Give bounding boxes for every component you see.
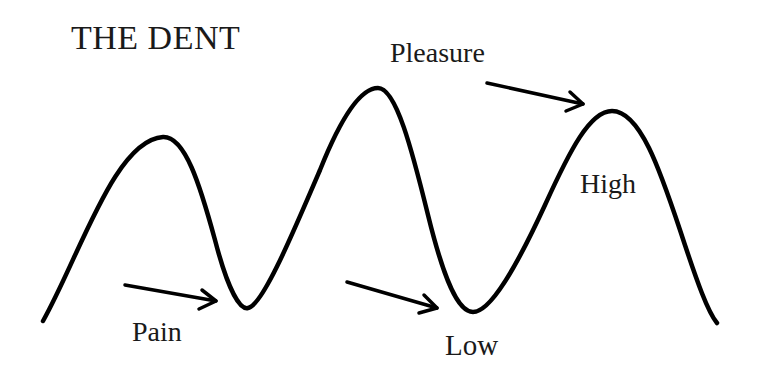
high-label: High xyxy=(580,170,636,198)
low-label: Low xyxy=(445,331,498,360)
pleasure-arrow xyxy=(487,83,583,111)
low-arrow xyxy=(347,282,437,313)
diagram-title: THE DENT xyxy=(71,21,240,55)
pain-arrow xyxy=(125,285,216,309)
pain-label: Pain xyxy=(132,318,182,346)
pleasure-label: Pleasure xyxy=(390,39,485,67)
